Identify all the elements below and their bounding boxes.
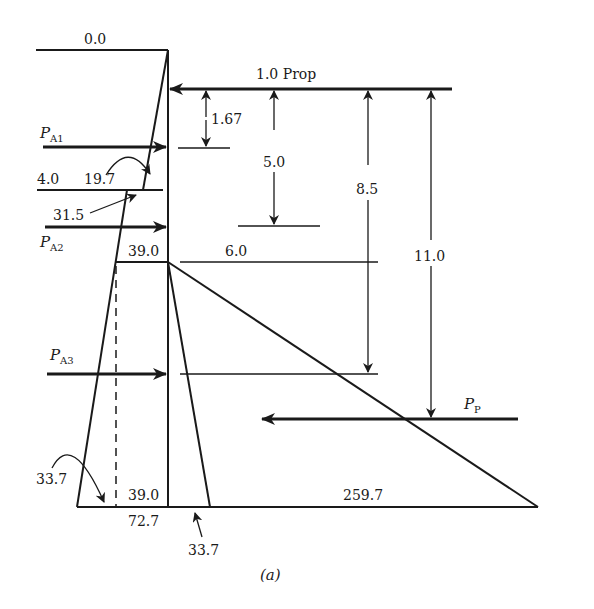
pressure-33-7-right-label: 33.7: [188, 542, 219, 558]
pressure-33-7-left-label: 33.7: [36, 471, 67, 487]
pa1-label: PA1: [39, 124, 64, 144]
dim-1-67-label: 1.67: [211, 111, 242, 127]
pp-label: PP: [463, 395, 481, 415]
active-pressure-lower: [77, 190, 127, 507]
pressure-39-0-base-label: 39.0: [128, 487, 159, 503]
prop-label: 1.0 Prop: [256, 66, 316, 82]
pressure-39-0-dredge-label: 39.0: [128, 243, 159, 259]
passive-pressure-line: [168, 262, 538, 507]
callout-31-5-arrow: [90, 195, 136, 213]
dim-8-5-label: 8.5: [356, 181, 378, 197]
figure-caption: (a): [260, 566, 281, 584]
elevation-top-label: 0.0: [84, 31, 106, 47]
pa2-label: PA2: [39, 233, 64, 253]
net-active-pressure-line: [168, 262, 210, 507]
dim-6-0-label: 6.0: [225, 243, 247, 259]
pressure-31-5-label: 31.5: [53, 207, 84, 223]
pressure-259-7-label: 259.7: [343, 487, 383, 503]
pressure-72-7-label: 72.7: [128, 513, 159, 529]
reference-lines: [178, 148, 378, 374]
dim-5-0-label: 5.0: [263, 154, 285, 170]
pa3-label: PA3: [49, 346, 74, 366]
elevation-layer-label: 4.0: [37, 171, 59, 187]
callout-33-7-right-arrow: [195, 513, 202, 537]
dim-11-0-label: 11.0: [414, 248, 445, 264]
pressure-19-7-label: 19.7: [84, 171, 115, 187]
sheet-pile-pressure-diagram: 0.0 1.0 Prop PA1 PA2 PA3 PP 4.0 19.7 31.…: [0, 0, 594, 609]
